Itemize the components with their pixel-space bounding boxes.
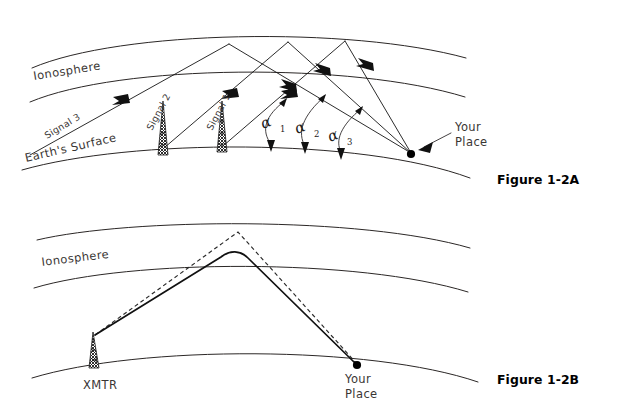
earth-surface-arc-a	[22, 147, 470, 178]
signal-1-label: Signal 1	[204, 92, 232, 132]
your-place-label-b-line2: Place	[345, 387, 378, 401]
figure-caption-b: Figure 1-2B	[497, 372, 579, 387]
your-place-label-a-line2: Place	[455, 135, 488, 149]
svg-text:α: α	[325, 125, 341, 145]
panel-b-group: Ionosphere XMTR Your Place	[32, 224, 478, 401]
angle-arc-alpha-1-arrow-top	[279, 98, 287, 107]
your-place-label-b-line1: Your	[344, 372, 371, 386]
angle-arc-alpha-1-arrow	[267, 140, 275, 152]
receiver-dot-panel-a	[407, 150, 415, 158]
receiver-dot-panel-b	[353, 361, 361, 369]
ionosphere-outer-arc-b	[37, 224, 470, 248]
ionosphere-label-a: Ionosphere	[32, 59, 101, 83]
svg-text:2: 2	[314, 129, 319, 139]
ionosphere-inner-arc-b	[34, 266, 468, 292]
svg-text:α: α	[258, 112, 274, 132]
tower-panel-b	[89, 332, 99, 368]
diagram-canvas: Ionosphere Earth's Surface Signal 3 Sign…	[0, 0, 621, 412]
arrowhead-up-signal-3	[112, 94, 130, 105]
angle-arc-alpha-3-arrow-top	[355, 106, 363, 115]
svg-text:3: 3	[347, 137, 352, 147]
alpha-1-label: α 1	[258, 112, 286, 134]
figure-caption-a: Figure 1-2A	[497, 172, 579, 187]
your-place-pointer-arrow-a	[418, 142, 433, 153]
panel-a-group: Ionosphere Earth's Surface Signal 3 Sign…	[22, 36, 488, 178]
svg-text:α: α	[292, 117, 308, 137]
alpha-2-label: α 2	[292, 117, 320, 139]
your-place-label-a-line1: Your	[454, 120, 481, 134]
signal-3-label: Signal 3	[42, 111, 82, 141]
signal-2-label: Signal 2	[144, 92, 172, 132]
idealized-reflection-path	[95, 232, 358, 365]
angle-arc-alpha-3-arrow	[337, 148, 345, 160]
ionosphere-label-b: Ionosphere	[41, 247, 110, 269]
figure-1-2: Ionosphere Earth's Surface Signal 3 Sign…	[0, 0, 621, 412]
angle-arc-alpha-2-arrow	[301, 142, 309, 154]
xmtr-label: XMTR	[83, 378, 117, 392]
signal-3-upleg	[30, 44, 229, 155]
svg-text:1: 1	[280, 124, 285, 134]
signal-1-downleg	[345, 41, 411, 153]
